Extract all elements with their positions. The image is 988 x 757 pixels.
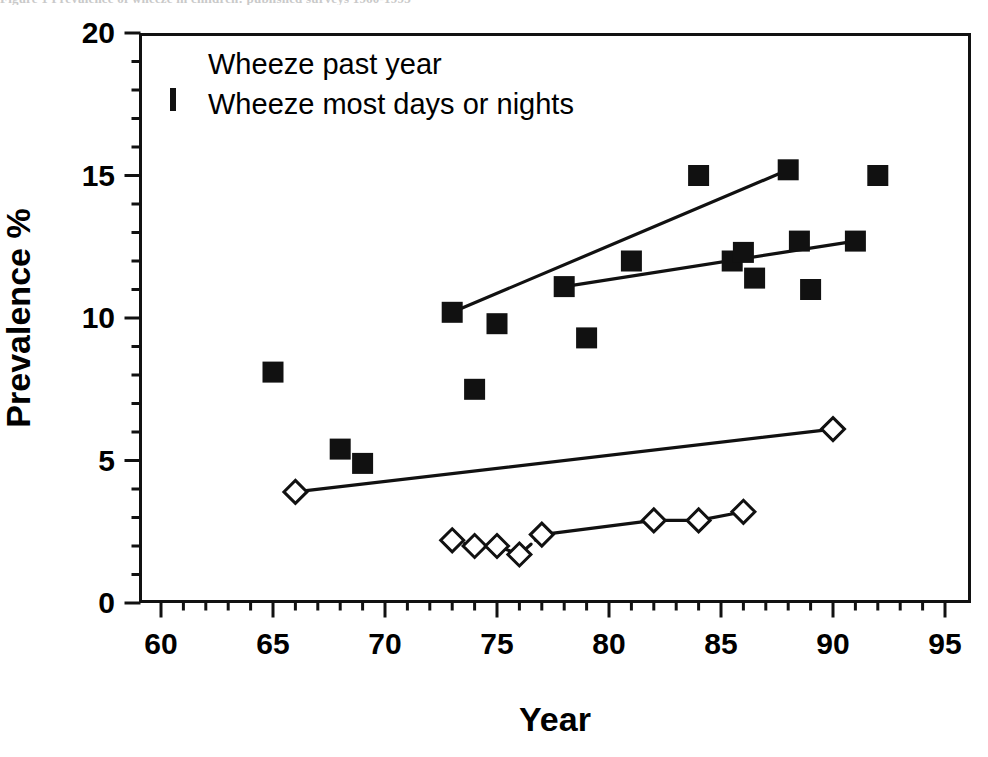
- x-tick-label-60: 60: [144, 627, 177, 661]
- trend-lines: [295, 170, 855, 555]
- legend-item-wheeze-past-year: Wheeze past year: [168, 44, 574, 84]
- x-tick-label-65: 65: [256, 627, 289, 661]
- x-tick-label-70: 70: [368, 627, 401, 661]
- data-point-s1-1: [441, 529, 464, 552]
- data-point-s1-5: [530, 523, 553, 546]
- data-point-s0-9: [688, 165, 709, 186]
- y-tick-label-20: 20: [82, 16, 115, 50]
- data-point-s1-6: [642, 509, 665, 532]
- legend-label-wheeze-past-year: Wheeze past year: [208, 48, 442, 81]
- x-tick-label-80: 80: [592, 627, 625, 661]
- data-point-s0-16: [845, 231, 866, 252]
- data-point-s0-17: [867, 165, 888, 186]
- chart-page: Figure 1 Prevalence of wheeze in childre…: [0, 0, 988, 757]
- legend-label-wheeze-most-days: Wheeze most days or nights: [208, 88, 574, 121]
- data-point-s0-14: [789, 231, 810, 252]
- data-point-s1-9: [822, 418, 845, 441]
- data-point-s1-2: [463, 535, 486, 558]
- x-tick-label-85: 85: [704, 627, 737, 661]
- data-markers: [263, 159, 889, 566]
- data-point-s0-13: [778, 159, 799, 180]
- data-point-s0-3: [442, 302, 463, 323]
- data-point-s0-1: [330, 439, 351, 460]
- data-point-s0-6: [554, 276, 575, 297]
- x-axis-title: Year: [519, 700, 591, 739]
- data-point-s1-7: [687, 509, 710, 532]
- x-tick-label-75: 75: [480, 627, 513, 661]
- data-point-s0-7: [576, 327, 597, 348]
- x-tick-label-90: 90: [816, 627, 849, 661]
- y-tick-label-10: 10: [82, 301, 115, 335]
- filled-square-icon: [168, 51, 194, 77]
- y-tick-label-5: 5: [98, 444, 115, 478]
- legend: Wheeze past year Wheeze most days or nig…: [168, 44, 574, 124]
- data-point-s0-15: [800, 279, 821, 300]
- open-diamond-icon: [168, 91, 194, 117]
- data-point-s1-3: [486, 535, 509, 558]
- legend-item-wheeze-most-days: Wheeze most days or nights: [168, 84, 574, 124]
- data-point-s0-0: [263, 362, 284, 383]
- data-point-s1-8: [732, 500, 755, 523]
- wheeze-most-days-connector: [542, 512, 744, 535]
- data-point-s0-2: [352, 453, 373, 474]
- y-tick-label-0: 0: [98, 586, 115, 620]
- wheeze-past-year-steep-trend: [452, 170, 788, 312]
- wheeze-most-days-long-trend: [295, 429, 833, 492]
- x-tick-label-95: 95: [928, 627, 961, 661]
- data-point-s0-12: [744, 268, 765, 289]
- data-point-s0-11: [733, 242, 754, 263]
- y-axis-title: Prevalence %: [0, 208, 38, 427]
- data-point-s1-0: [284, 480, 307, 503]
- data-point-s0-5: [487, 313, 508, 334]
- data-point-s0-8: [621, 251, 642, 272]
- data-point-s0-4: [464, 379, 485, 400]
- y-tick-label-15: 15: [82, 159, 115, 193]
